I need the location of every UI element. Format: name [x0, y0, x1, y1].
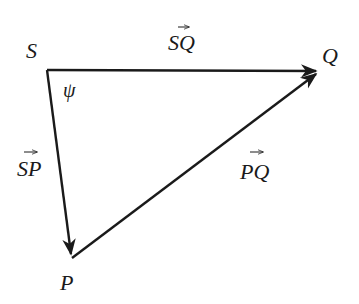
vertex-label-s: S: [26, 38, 37, 63]
vector-label-sq-text: SQ: [168, 30, 195, 55]
vector-label-sp-text: SP: [17, 156, 41, 181]
angle-label-psi: ψ: [63, 79, 76, 102]
vector-label-sp: SP: [17, 152, 41, 181]
vector-label-pq: PQ: [239, 152, 269, 184]
vector-sq-arrow: [47, 70, 316, 71]
vector-triangle-diagram: S Q P ψ SQ SP PQ: [0, 0, 359, 304]
vector-label-sq: SQ: [168, 27, 195, 55]
vector-label-pq-text: PQ: [239, 159, 269, 184]
vertex-label-q: Q: [322, 43, 338, 68]
vertex-label-p: P: [59, 270, 73, 295]
vector-pq-arrow: [72, 74, 316, 258]
